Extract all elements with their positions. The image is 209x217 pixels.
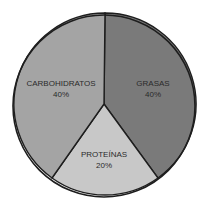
label-grasas: GRASAS xyxy=(136,79,169,88)
value-grasas: 40% xyxy=(145,90,161,99)
label-proteinas: PROTEÍNAS xyxy=(81,150,127,159)
pie-chart: CARBOHIDRATOS 40% GRASAS 40% PROTEÍNAS 2… xyxy=(0,0,209,217)
label-carbohidratos: CARBOHIDRATOS xyxy=(26,79,95,88)
value-carbohidratos: 40% xyxy=(53,90,69,99)
value-proteinas: 20% xyxy=(96,161,112,170)
